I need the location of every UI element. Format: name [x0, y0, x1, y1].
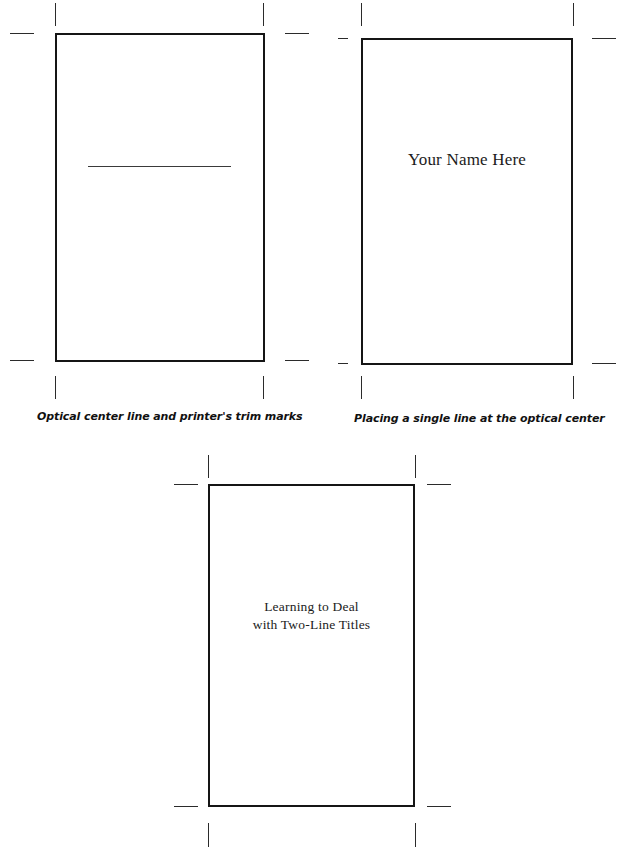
figure-root: Optical center line and printer's trim m…	[0, 0, 625, 859]
caption-single-line: Placing a single line at the optical cen…	[354, 412, 605, 425]
trim-mark-3-top-right-vertical	[415, 455, 416, 478]
trim-mark-bottom-left-horizontal	[10, 360, 34, 361]
caption-optical-center-line: Optical center line and printer's trim m…	[37, 410, 303, 423]
trim-mark-3-top-left-horizontal	[174, 484, 198, 485]
trim-mark-bottom-left-vertical	[55, 376, 56, 399]
trim-mark-top-left-vertical	[55, 3, 56, 26]
trim-mark-3-bottom-left-vertical	[208, 823, 209, 847]
trim-mark-2-top-left-vertical	[361, 3, 362, 26]
trim-mark-bottom-right-horizontal	[285, 360, 309, 361]
trim-mark-2-bottom-left-vertical	[361, 376, 362, 399]
trim-mark-2-top-right-vertical	[573, 3, 574, 26]
trim-mark-3-bottom-left-horizontal	[174, 806, 198, 807]
trim-mark-3-bottom-right-horizontal	[427, 806, 451, 807]
trim-mark-top-right-vertical	[263, 3, 264, 26]
trim-mark-2-bottom-right-horizontal	[592, 363, 616, 364]
trim-mark-2-bottom-right-vertical	[573, 376, 574, 399]
trim-mark-2-top-left-horizontal	[338, 38, 348, 39]
trim-mark-2-top-right-horizontal	[592, 38, 616, 39]
trim-mark-3-top-left-vertical	[208, 455, 209, 478]
page-title-two-line-first: Learning to Deal	[208, 598, 415, 615]
trim-mark-3-top-right-horizontal	[427, 484, 451, 485]
page-box-single-line	[361, 38, 573, 365]
trim-mark-3-bottom-right-vertical	[415, 823, 416, 847]
page-title-single-line: Your Name Here	[361, 149, 573, 171]
page-box-two-line	[208, 484, 415, 807]
page-box-optical-center	[55, 33, 265, 362]
trim-mark-top-left-horizontal	[10, 33, 34, 34]
page-title-two-line-second: with Two-Line Titles	[208, 616, 415, 633]
trim-mark-bottom-right-vertical	[263, 376, 264, 399]
trim-mark-top-right-horizontal	[285, 33, 309, 34]
optical-center-rule	[88, 166, 231, 167]
trim-mark-2-bottom-left-horizontal	[338, 363, 348, 364]
